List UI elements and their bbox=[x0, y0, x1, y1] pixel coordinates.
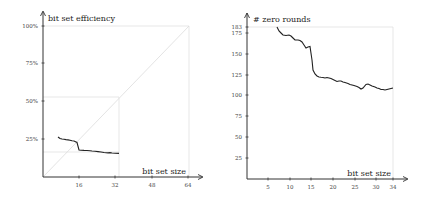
x-axis-title: bit set size bbox=[142, 167, 186, 176]
x-tick-label: 34 bbox=[390, 184, 397, 190]
left-chart: 25% 50% 75% 100% 16 32 48 64 bit set eff… bbox=[22, 11, 203, 188]
y-tick-label: 125 bbox=[232, 72, 243, 78]
y-tick-label: 25% bbox=[26, 136, 38, 142]
efficiency-series-line bbox=[58, 137, 119, 153]
y-axis-title: bit set efficiency bbox=[48, 14, 115, 23]
y-tick-label: 100 bbox=[232, 92, 243, 98]
x-tick-label: 15 bbox=[308, 184, 315, 190]
y-tick-label: 183 bbox=[232, 24, 243, 30]
x-tick-label: 64 bbox=[185, 182, 192, 188]
right-chart: 25 50 75 100 125 150 175 183 5 10 15 20 … bbox=[232, 13, 409, 190]
x-tick-label: 32 bbox=[112, 182, 119, 188]
x-axis-title: bit set size bbox=[347, 169, 391, 178]
y-tick-label: 75% bbox=[26, 60, 38, 66]
x-tick-label: 5 bbox=[266, 184, 270, 190]
y-tick-label: 150 bbox=[232, 51, 243, 57]
y-tick-label: 25 bbox=[235, 155, 242, 161]
diagonal-reference-line bbox=[43, 26, 189, 177]
x-tick-label: 48 bbox=[149, 182, 156, 188]
zero-rounds-series-line bbox=[277, 27, 393, 90]
charts-canvas: 25% 50% 75% 100% 16 32 48 64 bit set eff… bbox=[0, 0, 426, 202]
y-axis-title: # zero rounds bbox=[253, 15, 311, 24]
x-tick-label: 25 bbox=[352, 184, 359, 190]
x-tick-label: 16 bbox=[76, 182, 83, 188]
x-tick-label: 10 bbox=[287, 184, 294, 190]
y-tick-label: 50 bbox=[235, 134, 242, 140]
y-tick-label: 50% bbox=[26, 98, 38, 104]
y-tick-label: 75 bbox=[235, 113, 242, 119]
y-tick-label: 175 bbox=[232, 30, 243, 36]
x-tick-label: 30 bbox=[373, 184, 380, 190]
x-tick-label: 20 bbox=[330, 184, 337, 190]
y-tick-label: 100% bbox=[22, 23, 38, 29]
